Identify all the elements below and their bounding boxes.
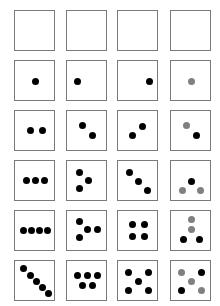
gray-dot	[188, 216, 195, 223]
dot-box-r3-c1	[14, 110, 55, 151]
black-dot	[41, 177, 48, 184]
dot-box-r4-c4	[170, 160, 211, 201]
gray-dot	[178, 269, 185, 276]
gray-dot	[198, 287, 205, 294]
dot-box-r4-c2	[66, 160, 107, 201]
black-dot	[23, 177, 30, 184]
black-dot	[20, 265, 27, 272]
dot-box-r5-c3	[117, 210, 158, 251]
black-dot	[27, 127, 34, 134]
black-dot	[196, 236, 203, 243]
black-dot	[76, 234, 83, 241]
dot-box-r5-c2	[66, 210, 107, 251]
dot-box-r2-c3	[117, 60, 158, 101]
black-dot	[36, 227, 43, 234]
black-dot	[144, 187, 151, 194]
gray-dot	[179, 187, 186, 194]
black-dot	[44, 227, 51, 234]
black-dot	[76, 185, 83, 192]
black-dot	[39, 127, 46, 134]
dot-box-r6-c4	[170, 260, 211, 301]
black-dot	[74, 78, 81, 85]
dot-box-r1-c1	[14, 10, 55, 51]
black-dot	[139, 123, 146, 130]
dot-box-r5-c1	[14, 210, 55, 251]
dot-box-r2-c2	[66, 60, 107, 101]
black-dot	[129, 221, 136, 228]
black-dot	[84, 226, 91, 233]
dot-box-r4-c3	[117, 160, 158, 201]
black-dot	[145, 287, 152, 294]
black-dot	[198, 269, 205, 276]
black-dot	[129, 132, 136, 139]
black-dot	[39, 284, 46, 291]
black-dot	[89, 282, 96, 289]
gray-dot	[188, 278, 195, 285]
black-dot	[125, 287, 132, 294]
black-dot	[193, 132, 200, 139]
black-dot	[94, 226, 101, 233]
gray-dot	[188, 78, 195, 85]
dot-box-r3-c3	[117, 110, 158, 151]
black-dot	[20, 227, 27, 234]
dot-box-r1-c3	[117, 10, 158, 51]
black-dot	[135, 278, 142, 285]
dot-box-r4-c1	[14, 160, 55, 201]
black-dot	[146, 78, 153, 85]
gray-dot	[183, 122, 190, 129]
black-dot	[45, 290, 52, 297]
black-dot	[126, 169, 133, 176]
dot-box-r6-c2	[66, 260, 107, 301]
black-dot	[145, 269, 152, 276]
black-dot	[129, 233, 136, 240]
dot-box-r6-c1	[14, 260, 55, 301]
dot-box-r2-c1	[14, 60, 55, 101]
black-dot	[178, 287, 185, 294]
black-dot	[135, 178, 142, 185]
black-dot	[74, 272, 81, 279]
black-dot	[141, 233, 148, 240]
black-dot	[85, 177, 92, 184]
black-dot	[32, 78, 39, 85]
black-dot	[180, 236, 187, 243]
dot-box-r6-c3	[117, 260, 158, 301]
black-dot	[33, 278, 40, 285]
dot-box-r3-c4	[170, 110, 211, 151]
black-dot	[76, 218, 83, 225]
black-dot	[188, 178, 195, 185]
black-dot	[125, 269, 132, 276]
gray-dot	[188, 226, 195, 233]
dot-box-r3-c2	[66, 110, 107, 151]
black-dot	[79, 122, 86, 129]
dot-box-r1-c4	[170, 10, 211, 51]
black-dot	[32, 177, 39, 184]
black-dot	[84, 272, 91, 279]
dot-box-r5-c4	[170, 210, 211, 251]
dot-box-r2-c4	[170, 60, 211, 101]
black-dot	[28, 227, 35, 234]
black-dot	[76, 169, 83, 176]
black-dot	[27, 272, 34, 279]
black-dot	[141, 221, 148, 228]
black-dot	[79, 282, 86, 289]
dot-box-r1-c2	[66, 10, 107, 51]
black-dot	[89, 132, 96, 139]
gray-dot	[197, 187, 204, 194]
black-dot	[94, 272, 101, 279]
